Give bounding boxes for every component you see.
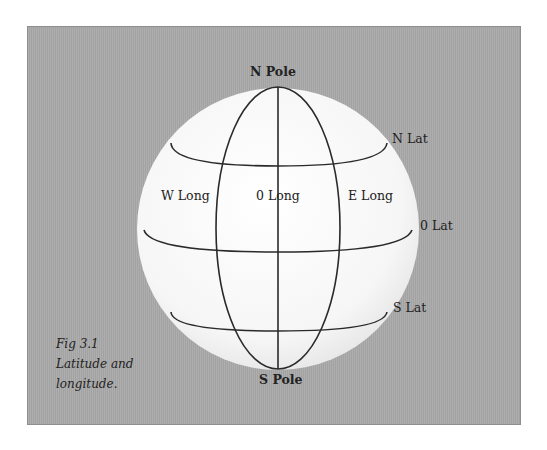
caption-line: Fig 3.1 [56, 334, 134, 354]
n-pole-label: N Pole [250, 64, 296, 79]
caption-line: Latitude and [56, 354, 134, 374]
zero-long-label: 0 Long [256, 188, 300, 203]
w-long-label: W Long [161, 188, 210, 203]
figure-caption: Fig 3.1 Latitude and longitude. [56, 334, 134, 394]
e-long-label: E Long [348, 188, 393, 203]
s-pole-label: S Pole [259, 372, 302, 387]
s-lat-label: S Lat [393, 300, 426, 315]
caption-line: longitude. [56, 374, 134, 394]
n-lat-label: N Lat [392, 131, 428, 146]
zero-lat-label: 0 Lat [420, 218, 453, 233]
